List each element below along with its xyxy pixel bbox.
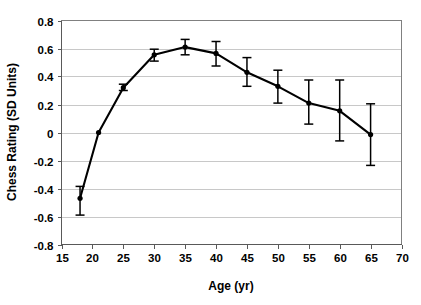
x-axis-title: Age (yr) [208,279,253,293]
x-tick-label: 70 [396,252,409,264]
chess-rating-by-age-chart: 0.80.60.40.20-0.2-0.4-0.6-0.8 1520253035… [0,0,421,305]
data-point [213,51,218,56]
y-tick-label: 0.6 [38,44,54,56]
data-point [183,45,188,50]
x-tick-label: 20 [86,252,99,264]
data-point [337,108,342,113]
y-tick-label: 0.2 [38,100,54,112]
y-tick-label: -0.2 [34,156,54,168]
x-tick-label: 40 [210,252,223,264]
x-tick-label: 30 [148,252,161,264]
data-point [275,84,280,89]
data-point [368,132,373,137]
x-tick-label: 55 [303,252,316,264]
x-tick-label: 50 [272,252,285,264]
x-tick-label: 35 [179,252,192,264]
y-tick-label: -0.8 [34,240,54,252]
y-axis-title: Chess Rating (SD Units) [5,63,19,201]
y-tick-label: 0.8 [38,16,55,28]
x-tick-label: 25 [117,252,130,264]
data-point [96,130,101,135]
x-tick-label: 60 [334,252,347,264]
x-tick-label: 45 [241,252,254,264]
y-tick-label: -0.6 [34,212,54,224]
y-tick-label: 0 [47,128,53,140]
data-point [121,85,126,90]
y-tick-label: 0.4 [38,71,55,83]
data-point [244,70,249,75]
x-tick-label: 15 [56,252,69,264]
chart-container: 0.80.60.40.20-0.2-0.4-0.6-0.8 1520253035… [0,0,421,305]
data-point [152,52,157,57]
data-point [306,101,311,106]
data-point [77,196,82,201]
x-tick-label: 65 [365,252,378,264]
y-tick-label: -0.4 [34,184,54,196]
